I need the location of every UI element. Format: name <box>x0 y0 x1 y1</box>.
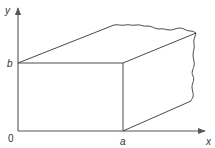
top-left-receding-edge <box>18 25 114 63</box>
origin-label: 0 <box>8 133 14 144</box>
bottom-right-receding-edge <box>123 101 191 131</box>
wavy-right-break-line <box>191 33 196 101</box>
top-right-receding-edge <box>123 33 196 63</box>
y-tick-label-b: b <box>7 58 13 69</box>
y-axis-label: y <box>4 5 11 16</box>
x-axis-label: x <box>205 136 212 147</box>
slab-diagram: y b 0 a x <box>0 0 215 148</box>
wavy-top-break-line <box>114 25 196 33</box>
x-tick-label-a: a <box>120 136 126 147</box>
